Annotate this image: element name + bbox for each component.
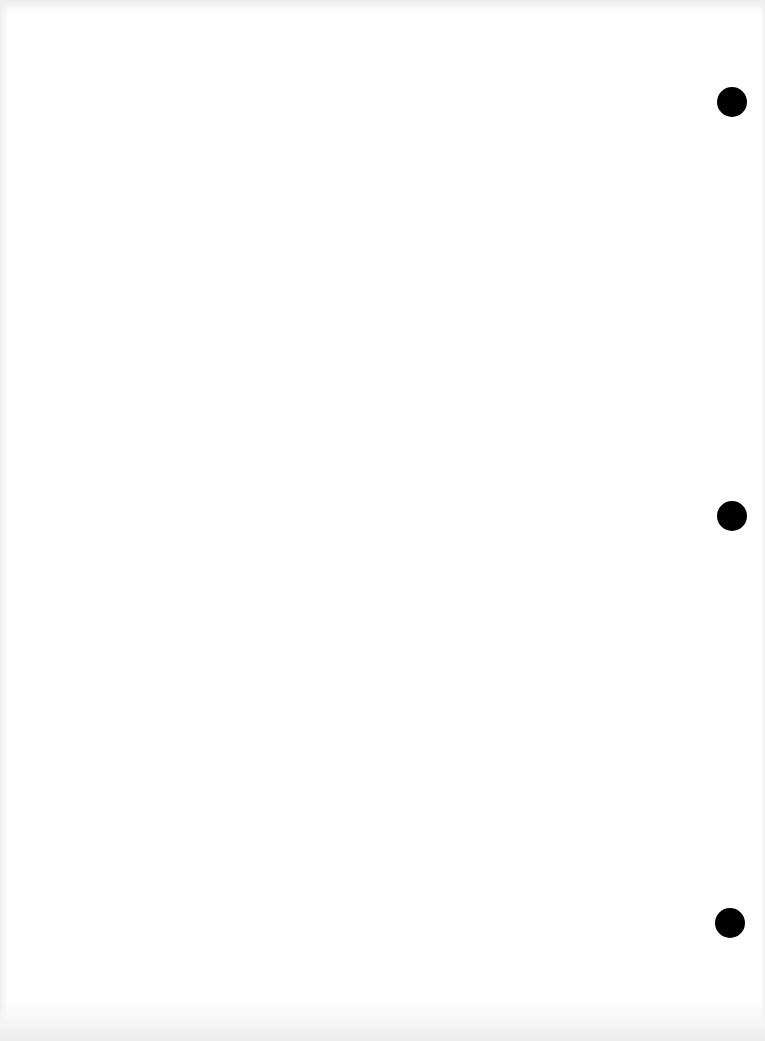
scan-noise-left [0,0,8,1041]
scan-noise-top [0,0,765,14]
punch-hole-bottom [715,908,745,938]
scanned-blank-page [0,0,765,1041]
punch-hole-top [717,87,747,117]
scan-noise-right [761,0,765,1041]
scan-noise-bottom [0,1001,765,1041]
punch-hole-middle [717,501,747,531]
